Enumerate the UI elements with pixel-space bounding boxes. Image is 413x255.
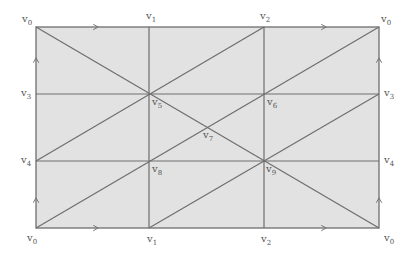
vertex-label-v6: v6	[267, 97, 277, 110]
vertex-label-v9: v9	[266, 164, 276, 177]
vertex-label-v4-left: v4	[21, 155, 31, 168]
vertex-label-v1-bottom: v1	[147, 234, 157, 247]
vertex-label-v0-bottom-left: v0	[27, 233, 37, 246]
vertex-label-v0-bottom-right: v0	[384, 233, 394, 246]
vertex-label-v8: v8	[152, 164, 162, 177]
vertex-label-v0-top-right: v0	[381, 14, 391, 27]
torus-triangulation-diagram	[0, 0, 413, 255]
vertex-label-v1-top: v1	[146, 11, 156, 24]
vertex-label-v2-top: v2	[260, 11, 270, 24]
vertex-label-v4-right: v4	[384, 155, 394, 168]
vertex-label-v7: v7	[203, 130, 213, 143]
vertex-label-v3-left: v3	[21, 88, 31, 101]
vertex-label-v0-top-left: v0	[22, 14, 32, 27]
vertex-label-v5: v5	[152, 97, 162, 110]
vertex-label-v2-bottom: v2	[261, 234, 271, 247]
vertex-label-v3-right: v3	[384, 88, 394, 101]
